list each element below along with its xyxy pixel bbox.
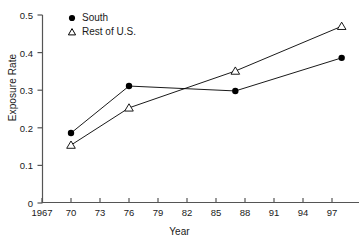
y-tick-label: 0.5	[0, 10, 33, 21]
y-tick-label: 0.4	[0, 47, 33, 58]
x-tick-label: 94	[298, 207, 309, 218]
y-tick-label: 0.3	[0, 85, 33, 96]
data-point-open-triangle	[125, 104, 134, 111]
x-tick-label: 1967	[31, 207, 52, 218]
y-axis-ticks	[38, 15, 43, 203]
data-series-layer	[67, 22, 346, 148]
axis-lines	[42, 15, 359, 203]
x-tick-label: 79	[153, 207, 164, 218]
data-point-open-triangle	[67, 141, 76, 148]
x-tick-label: 82	[182, 207, 193, 218]
chart-legend: South Rest of U.S.	[66, 11, 136, 39]
data-point-filled-circle	[68, 130, 74, 136]
x-axis-title: Year	[0, 226, 359, 237]
series-rest-of-u-s	[67, 22, 346, 148]
x-tick-label: 85	[211, 207, 222, 218]
legend-item-rest-of-us: Rest of U.S.	[66, 25, 136, 39]
data-point-filled-circle	[338, 55, 344, 61]
x-tick-label: 88	[240, 207, 251, 218]
legend-label-rest-of-us: Rest of U.S.	[82, 25, 136, 39]
series-line	[71, 58, 342, 133]
y-tick-label: 0.1	[0, 160, 33, 171]
x-tick-label: 76	[124, 207, 135, 218]
legend-item-south: South	[66, 11, 136, 25]
series-line	[71, 26, 342, 145]
x-tick-label: 70	[66, 207, 77, 218]
x-tick-label: 97	[327, 207, 338, 218]
data-point-open-triangle	[231, 67, 240, 74]
y-tick-label: 0	[0, 198, 33, 209]
open-triangle-icon	[66, 26, 82, 38]
y-tick-label: 0.2	[0, 122, 33, 133]
data-point-filled-circle	[232, 88, 238, 94]
series-south	[68, 55, 345, 137]
x-tick-label: 91	[269, 207, 280, 218]
x-tick-label: 73	[95, 207, 106, 218]
exposure-rate-line-chart: Exposure Rate Year 00.10.20.30.40.519677…	[0, 0, 359, 243]
data-point-filled-circle	[126, 83, 132, 89]
filled-circle-icon	[66, 12, 82, 24]
legend-label-south: South	[82, 11, 108, 25]
data-point-open-triangle	[337, 22, 346, 29]
